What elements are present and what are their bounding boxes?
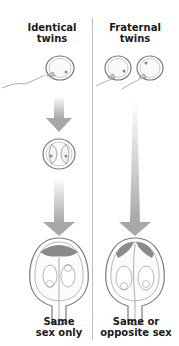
fraternal-caption-line2: opposite sex: [98, 327, 174, 338]
identical-caption-line1: Same: [22, 316, 96, 327]
identical-caption-line2: sex only: [22, 327, 96, 338]
single-egg-icon: [2, 56, 74, 88]
shared-placenta-uterus-icon: [30, 238, 89, 325]
fraternal-caption: Same or opposite sex: [98, 316, 174, 338]
two-eggs-icon: [96, 56, 163, 89]
arrow-down-icon: [119, 100, 151, 236]
fraternal-caption-line1: Same or: [98, 316, 174, 327]
twins-diagram-graphic: [0, 0, 179, 346]
separate-placentas-uterus-icon: [106, 238, 165, 325]
identical-caption: Same sex only: [22, 316, 96, 338]
arrow-down-icon: [46, 96, 72, 132]
arrow-down-icon: [43, 178, 75, 236]
split-zygote-icon: [43, 139, 75, 169]
